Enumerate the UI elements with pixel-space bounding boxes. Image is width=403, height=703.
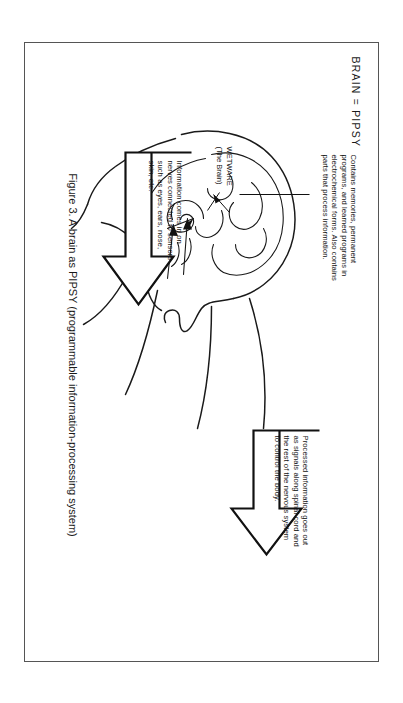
figure-title: BRAIN = PIPSY (349, 56, 361, 147)
wetware-label-line2: (The Brain) (214, 146, 224, 185)
rotated-figure-plane: BRAIN = PIPSY Contains memories, permane… (24, 42, 379, 662)
wetware-label: WETWARE (The Brain) (214, 146, 233, 185)
figure-area: BRAIN = PIPSY Contains memories, permane… (24, 42, 379, 662)
figure-page-frame: BRAIN = PIPSY Contains memories, permane… (24, 42, 379, 662)
wetware-label-line1: WETWARE (223, 146, 233, 185)
figure-caption: Figure 3. A brain as PIPSY (programmable… (64, 82, 79, 627)
callout-input-text: Information comes in on nerves connected… (145, 160, 183, 264)
callout-memory-text: Contains memories, permanent programs, a… (319, 154, 357, 282)
callout-output-text: Processed information goes out as signal… (271, 435, 309, 547)
